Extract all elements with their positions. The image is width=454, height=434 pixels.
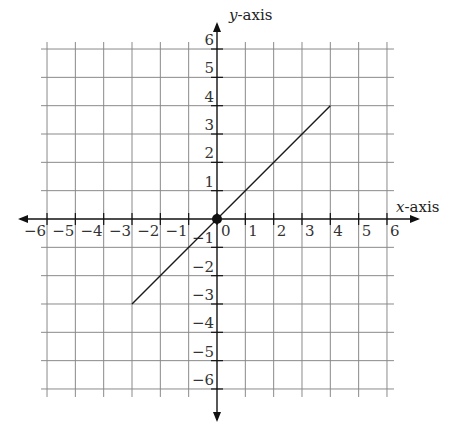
x-tick-label: −3 [109,222,131,240]
x-tick-label: 4 [333,222,343,240]
y-tick-label: 4 [204,88,214,106]
x-axis-label: x-axis [396,198,439,216]
coordinate-plane: −6−5−4−3−2−10123456 −6−5−4−3−2−1123456 x… [0,0,454,434]
x-tick-label: 3 [305,222,315,240]
y-tick-label: −4 [192,314,214,332]
y-tick-label: −1 [192,229,214,247]
y-tick-label: 5 [204,59,214,77]
y-tick-label: 3 [204,116,214,134]
origin-point [212,214,222,224]
x-tick-label: 1 [248,222,258,240]
y-tick-label: −2 [192,258,214,276]
y-tick-label: −3 [192,286,214,304]
y-tick-label: 1 [204,173,214,191]
y-tick-label: 6 [204,31,214,49]
x-tick-label: −4 [81,222,103,240]
line-segment [132,106,330,304]
x-tick-label: −6 [24,222,46,240]
x-tick-label: −1 [166,222,188,240]
y-axis-label: y-axis [228,6,272,24]
y-tick-labels: −6−5−4−3−2−1123456 [192,31,214,389]
x-tick-label: 2 [277,222,287,240]
y-tick-label: −5 [192,343,214,361]
plotted-points [212,214,222,224]
x-tick-label: −2 [137,222,159,240]
x-tick-label: −5 [52,222,74,240]
x-tick-label: 0 [221,222,231,240]
y-tick-label: 2 [204,144,214,162]
x-tick-label: 5 [362,222,372,240]
y-tick-label: −6 [192,371,214,389]
x-tick-label: 6 [390,222,400,240]
plotted-line [132,106,330,304]
